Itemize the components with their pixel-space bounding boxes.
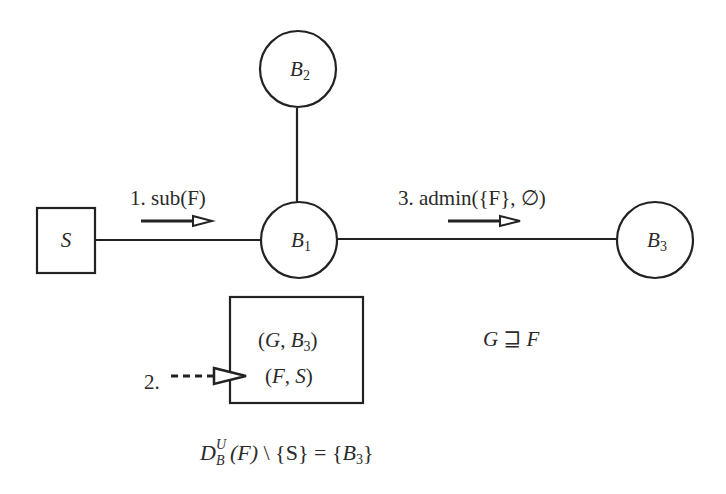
routing-entry-2-filter: F <box>272 364 285 388</box>
node-s-label: S <box>61 230 72 251</box>
node-b1-subscript: 1 <box>304 239 311 254</box>
routing-entry-2-dest: S <box>295 364 306 388</box>
equation: DUB(F) \ {S} = {B3} <box>200 442 373 467</box>
node-s-text: S <box>61 228 72 252</box>
message-3-label: 3. admin({F}, ∅) <box>398 188 546 209</box>
routing-entry-1-dest-sub: 3 <box>304 339 311 354</box>
node-b1-label: B1 <box>291 230 311 254</box>
node-b3-text: B <box>647 228 660 252</box>
node-b1-text: B <box>291 228 304 252</box>
node-b2-label: B2 <box>290 59 310 83</box>
message-1-step: 1. <box>130 186 146 210</box>
relation-left: G <box>483 327 498 351</box>
routing-entry-1-filter: G <box>265 328 280 352</box>
message-2-label: 2. <box>144 372 160 393</box>
equation-subscript: B <box>216 454 225 468</box>
node-b2-subscript: 2 <box>303 68 310 83</box>
equation-superscript: U <box>216 438 226 452</box>
equation-result-open: { <box>332 440 343 465</box>
message-3-step: 3. <box>398 186 414 210</box>
routing-entry-2: (F, S) <box>265 366 313 387</box>
relation-label: G ⊒ F <box>483 329 539 350</box>
equation-equals: = <box>314 440 326 465</box>
message-3-text: admin({F}, ∅) <box>419 186 546 210</box>
relation-right: F <box>526 327 539 351</box>
message-2-step: 2. <box>144 370 160 394</box>
diagram-canvas <box>0 0 726 494</box>
routing-entry-1: (G, B3) <box>258 330 318 354</box>
message-1-text: sub(F) <box>151 186 206 210</box>
equation-result: B <box>342 440 355 465</box>
node-b2-text: B <box>290 57 303 81</box>
node-b3-subscript: 3 <box>660 239 667 254</box>
arrow-1-head-icon <box>193 216 212 226</box>
equation-set: {S} <box>275 440 308 465</box>
relation-operator: ⊒ <box>503 327 521 351</box>
equation-setminus: \ <box>263 440 269 465</box>
node-b3-label: B3 <box>647 230 667 254</box>
arrow-3-head-icon <box>500 216 520 226</box>
routing-entry-1-dest: B <box>291 328 304 352</box>
equation-arg: (F) <box>230 440 258 465</box>
equation-result-close: } <box>363 440 374 465</box>
equation-result-sub: 3 <box>356 452 363 467</box>
equation-d: D <box>200 440 216 465</box>
message-1-label: 1. sub(F) <box>130 188 206 209</box>
